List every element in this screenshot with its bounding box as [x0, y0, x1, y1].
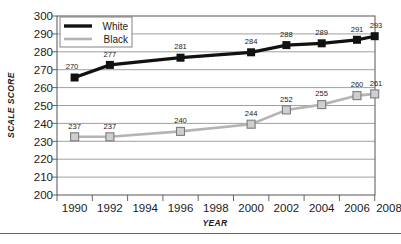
data-value-label: 284 [245, 37, 258, 46]
data-point-marker [371, 90, 379, 98]
series-black-value-labels: 237 237 240 244 252 255 260 261 [68, 79, 382, 131]
data-value-label: 293 [370, 21, 383, 30]
x-tick-label: 1998 [203, 202, 229, 214]
y-tick-label: 200 [34, 189, 53, 201]
data-value-label: 237 [68, 122, 81, 131]
data-value-label: 288 [280, 30, 293, 39]
x-tick-label: 1996 [168, 202, 194, 214]
y-tick-label: 230 [34, 136, 53, 148]
y-tick-label: 270 [34, 64, 53, 76]
data-point-marker [318, 39, 326, 47]
data-value-label: 281 [174, 42, 187, 51]
data-point-marker [353, 92, 361, 100]
data-point-marker [282, 106, 290, 114]
y-tick-label: 290 [34, 28, 53, 40]
x-tick-label: 2000 [238, 202, 264, 214]
y-axis-title: SCALE SCORE [6, 72, 16, 138]
x-axis-tick-labels: 1990 1992 1994 1996 1998 2000 2002 2004 … [62, 202, 401, 214]
y-axis-tickmarks [52, 16, 57, 195]
data-point-marker [177, 127, 185, 135]
y-tick-label: 300 [34, 10, 53, 22]
data-value-label: 252 [280, 95, 293, 104]
chart-container: 300 290 280 270 260 250 240 230 220 210 … [0, 0, 401, 244]
series-black-line [75, 94, 375, 137]
legend-label-black: Black [104, 34, 129, 45]
x-tick-label: 1992 [97, 202, 123, 214]
y-tick-label: 250 [34, 100, 53, 112]
data-point-marker [371, 32, 379, 40]
x-tick-label: 2006 [344, 202, 370, 214]
chart-legend: White Black [60, 17, 132, 47]
data-value-label: 240 [174, 116, 187, 125]
data-value-label: 255 [315, 89, 328, 98]
x-tick-label: 2004 [309, 202, 335, 214]
y-tick-label: 220 [34, 153, 53, 165]
y-tick-label: 280 [34, 46, 53, 58]
x-axis-tickmarks [57, 195, 375, 201]
y-axis-tick-labels: 300 290 280 270 260 250 240 230 220 210 … [34, 10, 53, 201]
data-value-label: 261 [370, 79, 383, 88]
x-tick-label: 1994 [132, 202, 158, 214]
x-tick-label: 2002 [274, 202, 300, 214]
data-point-marker [353, 36, 361, 44]
x-tick-label: 2008 [376, 202, 401, 214]
data-value-label: 277 [104, 50, 117, 59]
data-value-label: 270 [66, 62, 79, 71]
y-tick-label: 210 [34, 171, 53, 183]
x-tick-label: 1990 [62, 202, 88, 214]
data-value-label: 260 [351, 80, 364, 89]
data-point-marker [318, 101, 326, 109]
y-tick-label: 260 [34, 82, 53, 94]
data-point-marker [247, 48, 255, 56]
line-chart: 300 290 280 270 260 250 240 230 220 210 … [0, 0, 401, 244]
y-tick-label: 240 [34, 118, 53, 130]
x-axis-title: YEAR [202, 218, 228, 228]
data-value-label: 289 [315, 28, 328, 37]
data-point-marker [71, 133, 79, 141]
data-point-marker [106, 133, 114, 141]
data-point-marker [106, 61, 114, 69]
data-point-marker [247, 120, 255, 128]
data-point-marker [282, 41, 290, 49]
data-value-label: 291 [351, 25, 364, 34]
legend-label-white: White [102, 21, 128, 32]
data-value-label: 237 [104, 122, 117, 131]
data-value-label: 244 [245, 109, 258, 118]
data-point-marker [177, 54, 185, 62]
data-point-marker [71, 74, 79, 82]
series-black-markers [71, 90, 379, 141]
